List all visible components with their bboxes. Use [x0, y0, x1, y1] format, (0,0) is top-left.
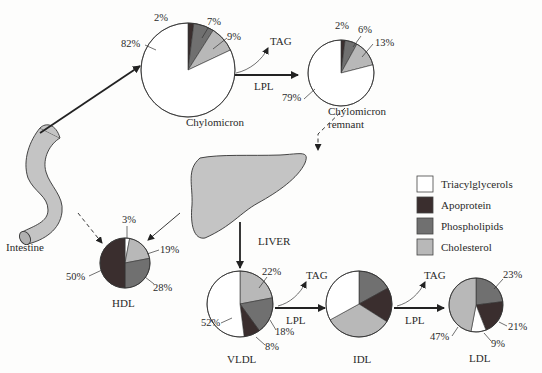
pie-chylomicron-remnant [308, 40, 374, 106]
intestine-to-chylomicron-arrow [40, 66, 140, 133]
chylomicron-pct-phospholipids: 7% [207, 16, 221, 27]
intestine-to-hdl-arrow [78, 213, 102, 243]
pie-chylomicron [141, 23, 235, 117]
hdl-label: HDL [112, 297, 135, 309]
legend-swatch-cholesterol [417, 239, 433, 255]
ldl-pct-triacylglycerols: 9% [491, 338, 505, 349]
tag-label-2: TAG [306, 269, 328, 281]
pie-slice-cholesterol [449, 278, 476, 332]
pie-slice-phospholipids [125, 258, 150, 288]
legend-swatch-apoprotein [417, 197, 433, 213]
lipoprotein-metabolism-diagram: Intestine LIVER TAG LPL TAG LPL TAG LPL … [0, 0, 542, 373]
remnant-pct-triacylglycerols: 79% [282, 92, 302, 103]
remnant-label-line1: Chylomicron [328, 105, 387, 117]
vldl-pct-apoprotein: 8% [265, 341, 279, 352]
intestine-shape [17, 125, 62, 247]
lpl-label-1: LPL [254, 80, 274, 92]
legend-label-cholesterol: Cholesterol [441, 241, 492, 253]
tag-release-arrow-3 [397, 282, 425, 306]
hdl-pct-apoprotein: 50% [66, 271, 86, 282]
ldl-pct-phospholipids: 23% [503, 269, 523, 280]
ldl-pct-cholesterol: 47% [430, 331, 450, 342]
leader-line [499, 322, 507, 326]
legend-label-phospholipids: Phospholipids [441, 220, 503, 232]
leader-line [304, 89, 315, 99]
vldl-pct-triacylglycerols: 52% [201, 317, 221, 328]
legend-label-apoprotein: Apoprotein [441, 199, 492, 211]
leader-line [494, 279, 503, 289]
vldl-label: VLDL [227, 353, 257, 365]
leader-line [484, 333, 491, 341]
leader-line [145, 277, 154, 284]
vldl-pct-phospholipids: 18% [275, 326, 295, 337]
tag-release-arrow-1 [236, 48, 268, 73]
legend-label-triacylglycerols: Triacylglycerols [441, 178, 513, 190]
legend: Triacylglycerols Apoprotein Phospholipid… [417, 176, 513, 255]
lpl-label-2: LPL [286, 314, 306, 326]
tag-label-3: TAG [424, 269, 446, 281]
legend-swatch-triacylglycerols [417, 176, 433, 192]
intestine-label: Intestine [6, 241, 44, 253]
pie-ldl [449, 278, 503, 332]
chylomicron-pct-triacylglycerols: 82% [121, 38, 141, 49]
hdl-pct-triacylglycerols: 3% [122, 214, 136, 225]
lpl-label-3: LPL [405, 314, 425, 326]
pie-idl [326, 271, 392, 337]
ldl-label: LDL [469, 352, 491, 364]
hdl-pct-phospholipids: 28% [153, 282, 173, 293]
remnant-pct-apoprotein: 2% [335, 20, 349, 31]
hdl-pct-cholesterol: 19% [160, 244, 180, 255]
remnant-pct-phospholipids: 6% [358, 24, 372, 35]
liver-shape [191, 154, 306, 239]
chylomicron-pct-apoprotein: 2% [154, 12, 168, 23]
leader-line [89, 270, 102, 276]
liver-to-hdl-arrow [148, 213, 180, 240]
liver-label: LIVER [258, 235, 291, 247]
tag-label-1: TAG [270, 35, 292, 47]
leader-line [452, 327, 458, 336]
leader-line [147, 250, 159, 254]
remnant-label-line2: remnant [328, 118, 364, 130]
remnant-pct-cholesterol: 13% [375, 37, 395, 48]
vldl-pct-cholesterol: 22% [262, 266, 282, 277]
chylomicron-pct-cholesterol: 9% [227, 31, 241, 42]
ldl-pct-apoprotein: 21% [508, 321, 528, 332]
pie-slice-apoprotein [100, 238, 125, 288]
pie-hdl [100, 238, 150, 288]
chylomicron-label: Chylomicron [186, 116, 245, 128]
leader-line [256, 337, 265, 345]
idl-label: IDL [353, 353, 372, 365]
tag-release-arrow-2 [278, 282, 306, 306]
legend-swatch-phospholipids [417, 218, 433, 234]
leader-line [270, 320, 276, 330]
